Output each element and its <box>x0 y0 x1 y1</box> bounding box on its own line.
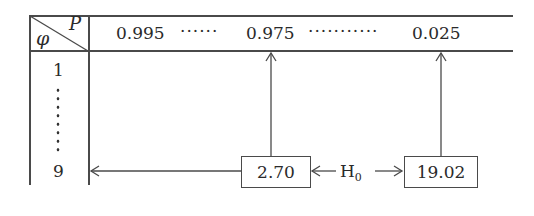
p-value-0025: 0.025 <box>412 23 461 43</box>
ellipsis-short: ······ <box>180 21 218 41</box>
ellipsis-long: ··········· <box>308 21 378 41</box>
p-value-0995: 0.995 <box>116 23 165 43</box>
corner-p-label: P <box>69 14 81 34</box>
critical-value-box-left: 2.70 <box>241 156 311 188</box>
row-label-1: 1 <box>53 60 64 80</box>
vertical-ellipsis <box>56 86 60 152</box>
critical-value-box-right: 19.02 <box>404 156 478 188</box>
hypothesis-label: H0 <box>340 161 362 188</box>
corner-phi-label: φ <box>36 28 49 48</box>
row-label-9: 9 <box>53 161 64 181</box>
hypothesis-subscript: 0 <box>355 171 362 184</box>
p-value-0975: 0.975 <box>246 23 295 43</box>
hypothesis-letter: H <box>340 161 355 181</box>
